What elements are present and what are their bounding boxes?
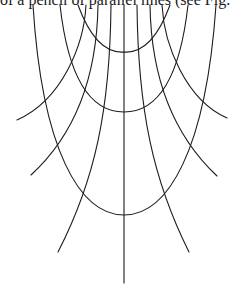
fan-line-right-1 [137,5,189,252]
fan-line-left-3 [17,5,86,120]
field-lines-diagram [0,0,234,286]
fan-line-left-2 [31,5,98,175]
fan-line-right-3 [162,5,227,118]
fan-line-right-2 [150,5,217,176]
